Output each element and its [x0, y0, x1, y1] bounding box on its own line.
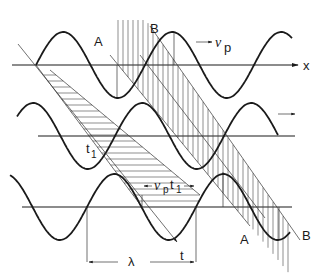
svg-text:p: p — [224, 40, 231, 55]
wave-diagram: λ v p t 1 x v p t 1 t A B A B — [0, 0, 320, 279]
svg-text:v: v — [154, 178, 161, 193]
svg-text:t: t — [86, 141, 90, 156]
phase-a-top-label: A — [94, 34, 103, 49]
svg-text:v: v — [215, 35, 222, 50]
svg-text:t: t — [170, 177, 174, 192]
svg-text:1: 1 — [176, 184, 182, 195]
phase-a-bottom-label: A — [240, 232, 249, 247]
t1-band-right-edge — [50, 70, 200, 195]
vpt1-label: v p t 1 — [154, 177, 182, 195]
t1-label: t 1 — [86, 141, 97, 160]
velocity-label: v p — [215, 35, 231, 55]
phase-b-top-label: B — [150, 21, 159, 36]
time-axis-label: t — [180, 248, 184, 263]
svg-text:1: 1 — [91, 149, 97, 160]
band-a-edge — [110, 55, 250, 226]
phase-b-bottom-label: B — [302, 228, 311, 243]
wavelength-label: λ — [128, 254, 135, 269]
phase-bands — [36, 20, 300, 272]
x-axis-label: x — [303, 58, 310, 73]
svg-text:p: p — [163, 184, 169, 195]
